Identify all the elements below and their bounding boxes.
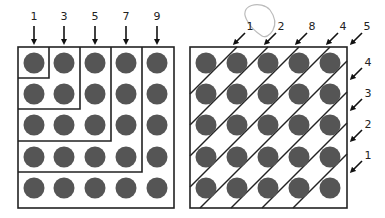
dot <box>54 53 75 74</box>
dot <box>54 147 75 168</box>
column-label: 7 <box>123 10 130 23</box>
dot <box>289 84 310 105</box>
dot <box>147 84 168 105</box>
dot <box>24 147 45 168</box>
dot <box>196 84 217 105</box>
dot <box>24 178 45 199</box>
diagonal-label: 5 <box>364 20 371 33</box>
diagonal-arrow-icon <box>266 33 276 43</box>
dot <box>258 115 279 136</box>
dot <box>320 178 341 199</box>
dot <box>320 147 341 168</box>
dot <box>227 178 248 199</box>
diagonal-arrow-icon <box>352 33 362 43</box>
dot <box>258 147 279 168</box>
dot <box>85 53 106 74</box>
dot <box>196 178 217 199</box>
diagonal-label: 1 <box>247 20 254 33</box>
dot <box>289 147 310 168</box>
dot <box>227 53 248 74</box>
dot <box>54 178 75 199</box>
dot <box>85 115 106 136</box>
dot <box>258 84 279 105</box>
dot <box>116 147 137 168</box>
dot <box>24 53 45 74</box>
diagonal-arrow-icon <box>352 99 362 109</box>
dot <box>24 115 45 136</box>
dot <box>116 178 137 199</box>
dot <box>116 53 137 74</box>
dot <box>54 115 75 136</box>
dot <box>147 147 168 168</box>
dot <box>147 178 168 199</box>
dot <box>258 53 279 74</box>
dot <box>227 147 248 168</box>
dot <box>320 53 341 74</box>
left-panel: 13579 <box>18 10 174 208</box>
dot <box>258 178 279 199</box>
dot <box>320 115 341 136</box>
column-label: 5 <box>92 10 99 23</box>
column-label: 1 <box>31 10 38 23</box>
right-panel: 12845 4321 <box>190 5 372 208</box>
dot <box>116 84 137 105</box>
diagonal-label: 4 <box>365 56 372 69</box>
diagonal-arrow-icon <box>328 33 338 43</box>
diagonal-label: 4 <box>340 20 347 33</box>
column-label: 9 <box>154 10 161 23</box>
dot <box>289 53 310 74</box>
diagonal-label: 2 <box>278 20 285 33</box>
figure-canvas: 13579 12845 4321 <box>0 0 385 218</box>
diagonal-arrow-icon <box>297 33 307 43</box>
dot <box>147 115 168 136</box>
dot <box>85 147 106 168</box>
dot <box>54 84 75 105</box>
dot <box>227 84 248 105</box>
diagonal-arrow-icon <box>352 130 362 140</box>
dot <box>116 115 137 136</box>
dot <box>289 115 310 136</box>
dot <box>196 115 217 136</box>
dot <box>196 53 217 74</box>
dot <box>227 115 248 136</box>
dot <box>147 53 168 74</box>
diagonal-arrow-icon <box>352 68 362 78</box>
diagonal-arrow-icon <box>235 33 245 43</box>
dot <box>289 178 310 199</box>
dot <box>85 178 106 199</box>
dot <box>320 84 341 105</box>
diagonal-label: 3 <box>365 87 372 100</box>
dot <box>24 84 45 105</box>
column-label: 3 <box>61 10 68 23</box>
diagonal-label: 2 <box>365 118 372 131</box>
diagonal-label: 8 <box>309 20 316 33</box>
diagonal-arrow-icon <box>352 161 362 171</box>
diagonal-label: 1 <box>365 149 372 162</box>
dot <box>196 147 217 168</box>
dot <box>85 84 106 105</box>
